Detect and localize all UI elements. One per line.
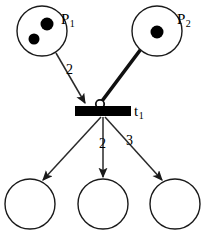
- arc-t1-to-p5: [105, 117, 162, 180]
- token-p1-b: [29, 34, 40, 45]
- place-label-p1: P1: [61, 12, 75, 27]
- token-p2-a: [151, 26, 164, 39]
- place-p1: [17, 6, 67, 56]
- arc-p2-to-t1-inhibitor: [102, 49, 141, 101]
- place-output-left: [5, 179, 55, 229]
- transition-bar-t1: [75, 106, 131, 116]
- petri-net-canvas: [0, 0, 208, 236]
- arc-weight-t1-to-p5: 3: [126, 134, 133, 148]
- place-output-right: [150, 179, 200, 229]
- token-p1-a: [41, 18, 54, 31]
- place-label-p1-subscript: 1: [69, 18, 75, 29]
- arc-t1-to-p3: [43, 117, 101, 180]
- place-label-p2: P2: [177, 12, 191, 27]
- arc-weight-t1-to-p4: 2: [99, 137, 106, 151]
- arc-p1-to-t1: [56, 53, 85, 103]
- transition-label-t1-subscript: 1: [138, 110, 144, 121]
- place-output-middle: [78, 179, 128, 229]
- arc-weight-p1-to-t1: 2: [66, 63, 73, 77]
- petri-net-diagram: P1 P2 t1 2 2 3: [0, 0, 208, 236]
- place-label-p2-subscript: 2: [185, 18, 191, 29]
- transition-label-t1: t1: [134, 104, 144, 119]
